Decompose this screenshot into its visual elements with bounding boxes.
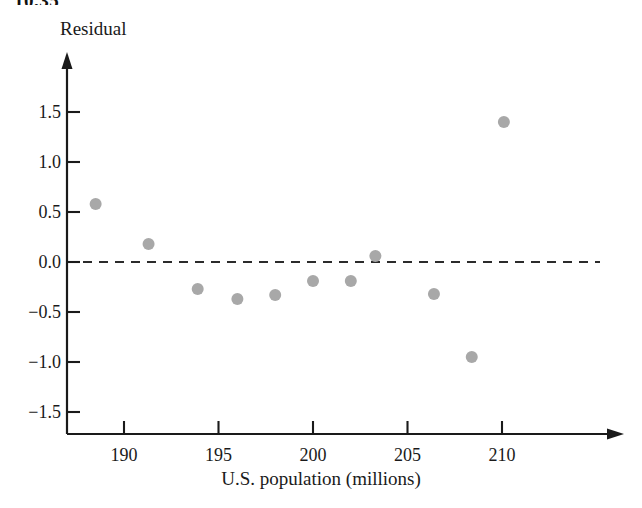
data-point bbox=[345, 275, 357, 287]
data-points-layer bbox=[90, 116, 510, 363]
residual-plot-figure: 10.35 Residual −1.5−1.0−0.50.00.51.01.5 … bbox=[0, 0, 642, 508]
tick-marks-layer bbox=[67, 112, 502, 434]
data-point bbox=[498, 116, 510, 128]
x-tick-label: 190 bbox=[94, 446, 154, 464]
y-tick-label: 1.0 bbox=[5, 153, 61, 171]
y-tick-label: 0.5 bbox=[5, 203, 61, 221]
y-tick-label: −1.0 bbox=[5, 353, 61, 371]
data-point bbox=[369, 250, 381, 262]
data-point bbox=[428, 288, 440, 300]
x-tick-label: 195 bbox=[189, 446, 249, 464]
y-tick-label: 0.0 bbox=[5, 253, 61, 271]
y-tick-label: 1.5 bbox=[5, 103, 61, 121]
y-axis-arrowhead bbox=[62, 52, 73, 69]
data-point bbox=[269, 289, 281, 301]
data-point bbox=[143, 238, 155, 250]
x-tick-label: 205 bbox=[378, 446, 438, 464]
data-point bbox=[90, 198, 102, 210]
plot-canvas bbox=[0, 0, 642, 508]
data-point bbox=[307, 275, 319, 287]
x-axis-title: U.S. population (millions) bbox=[0, 468, 642, 490]
y-tick-label: −1.5 bbox=[5, 403, 61, 421]
x-tick-label: 200 bbox=[283, 446, 343, 464]
x-axis-arrowhead bbox=[607, 429, 624, 440]
data-point bbox=[231, 293, 243, 305]
data-point bbox=[466, 351, 478, 363]
x-tick-label: 210 bbox=[472, 446, 532, 464]
y-tick-label: −0.5 bbox=[5, 303, 61, 321]
data-point bbox=[192, 283, 204, 295]
